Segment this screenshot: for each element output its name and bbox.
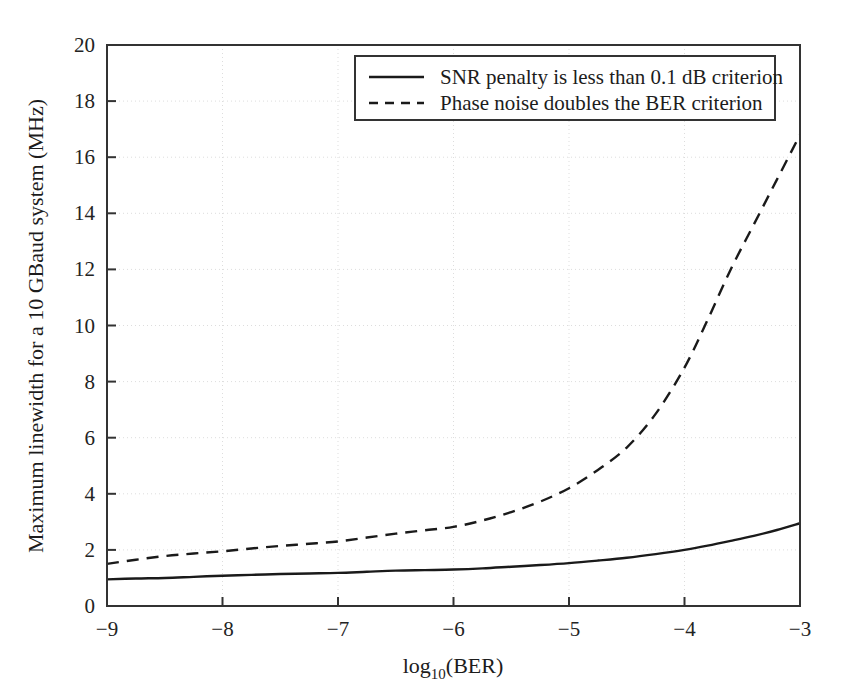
legend-label-1: Phase noise doubles the BER criterion — [440, 91, 763, 115]
chart-figure: 02468101214161820 −9−8−7−6−5−4−3 Maximum… — [0, 0, 847, 695]
y-tick-label: 2 — [85, 538, 96, 562]
chart-legend: SNR penalty is less than 0.1 dB criterio… — [355, 56, 783, 120]
y-tick-label: 10 — [74, 314, 95, 338]
chart-canvas: 02468101214161820 −9−8−7−6−5−4−3 Maximum… — [0, 0, 847, 695]
legend-label-0: SNR penalty is less than 0.1 dB criterio… — [440, 65, 783, 89]
x-tick-label: −6 — [442, 617, 464, 641]
y-tick-label: 6 — [85, 426, 96, 450]
y-tick-label: 12 — [74, 257, 95, 281]
x-axis-title: log10(BER) — [403, 653, 504, 682]
x-tick-label: −3 — [789, 617, 811, 641]
y-tick-label: 8 — [85, 370, 96, 394]
x-tick-label: −8 — [211, 617, 233, 641]
y-tick-label: 4 — [85, 482, 96, 506]
x-axis-title-subscript: 10 — [431, 666, 446, 682]
y-tick-label: 18 — [74, 89, 95, 113]
y-tick-label: 0 — [85, 594, 96, 618]
y-tick-label: 20 — [74, 33, 95, 57]
x-tick-label: −7 — [327, 617, 349, 641]
y-tick-label: 16 — [74, 145, 95, 169]
y-axis-title: Maximum linewidth for a 10 GBaud system … — [23, 99, 48, 553]
x-axis-title-base: log — [403, 653, 431, 678]
y-axis-tick-labels: 02468101214161820 — [74, 33, 96, 618]
y-tick-label: 14 — [74, 201, 96, 225]
x-tick-label: −9 — [96, 617, 118, 641]
x-tick-label: −4 — [673, 617, 696, 641]
x-tick-label: −5 — [558, 617, 580, 641]
x-axis-tick-labels: −9−8−7−6−5−4−3 — [96, 617, 811, 641]
x-axis-title-rest: (BER) — [446, 653, 503, 678]
